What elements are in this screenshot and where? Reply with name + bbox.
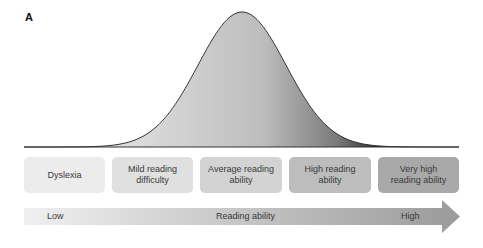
axis-label: Reading ability (216, 211, 275, 221)
low-label: Low (47, 211, 64, 221)
high-label: High (401, 211, 420, 221)
